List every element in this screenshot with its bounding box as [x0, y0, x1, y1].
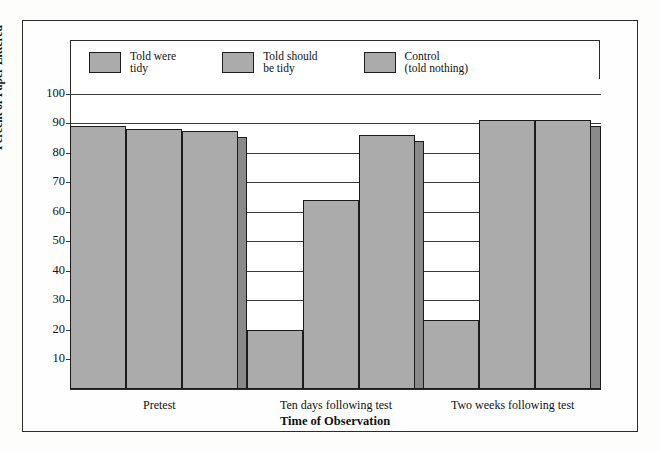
bar-told-should-be-tidy-two-weeks-following-test — [479, 120, 535, 389]
plot-inner: 102030405060708090100PretestTen days fol… — [71, 79, 601, 389]
legend-label: Control (told nothing) — [405, 50, 469, 75]
y-tick-label: 50 — [25, 233, 65, 248]
bar-told-should-be-tidy-ten-days-following-test — [303, 200, 359, 389]
chart-legend: Told were tidy Told should be tidy Contr… — [70, 40, 600, 84]
y-tick-label: 100 — [25, 86, 65, 101]
legend-swatch-icon — [89, 52, 121, 73]
y-tick-label: 60 — [25, 204, 65, 219]
y-tick-label: 90 — [25, 115, 65, 130]
bar-told-were-tidy-pretest — [70, 126, 126, 389]
y-axis-title: Percent of Paper Littered — [0, 25, 4, 150]
y-tick-label: 20 — [25, 322, 65, 337]
legend-label: Told were tidy — [130, 50, 176, 75]
bar-control-told-nothing-pretest — [182, 131, 238, 389]
bar-told-should-be-tidy-pretest — [126, 129, 182, 389]
x-tick-label: Ten days following test — [248, 398, 425, 413]
y-tick-label: 10 — [25, 351, 65, 366]
plot-area: 102030405060708090100PretestTen days fol… — [70, 79, 601, 390]
x-tick-label: Two weeks following test — [424, 398, 601, 413]
y-tick-label: 70 — [25, 174, 65, 189]
legend-swatch-icon — [222, 52, 254, 73]
x-axis-title: Time of Observation — [70, 414, 600, 429]
y-tick-label: 40 — [25, 263, 65, 278]
y-tick-mark — [66, 94, 71, 95]
x-tick-label: Pretest — [71, 398, 248, 413]
legend-item-told-were-tidy: Told were tidy — [89, 50, 176, 75]
legend-swatch-icon — [364, 52, 396, 73]
y-tick-label: 30 — [25, 292, 65, 307]
legend-item-told-should-be-tidy: Told should be tidy — [222, 50, 317, 75]
legend-item-control: Control (told nothing) — [364, 50, 469, 75]
bar-told-were-tidy-two-weeks-following-test — [423, 320, 479, 389]
legend-label: Told should be tidy — [263, 50, 317, 75]
gridline — [71, 94, 601, 95]
y-tick-label: 80 — [25, 145, 65, 160]
bar-told-were-tidy-ten-days-following-test — [247, 330, 303, 389]
bar-control-told-nothing-ten-days-following-test — [359, 135, 415, 389]
y-tick-mark — [66, 123, 71, 124]
bar-3d-side — [590, 126, 601, 389]
bar-control-told-nothing-two-weeks-following-test — [535, 120, 591, 389]
figure-canvas: Told were tidy Told should be tidy Contr… — [0, 0, 660, 451]
